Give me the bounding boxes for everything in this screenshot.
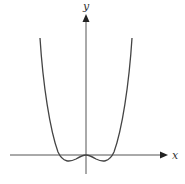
y-axis-arrow-icon (83, 14, 90, 22)
x-axis-arrow-icon (160, 152, 168, 159)
y-axis-label: y (82, 0, 90, 13)
function-graph: x y (0, 0, 185, 184)
x-axis-label: x (172, 149, 179, 162)
